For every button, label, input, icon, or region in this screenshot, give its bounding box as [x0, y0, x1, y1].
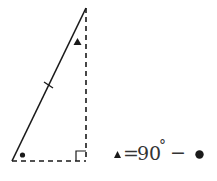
equation-dot-icon [195, 150, 203, 158]
angle-equation: = 90 ° − [114, 137, 204, 164]
right-triangle-diagram: = 90 ° − [0, 0, 217, 181]
dot-angle-marker-icon [20, 152, 25, 157]
right-angle-marker [76, 151, 86, 161]
triangle-angle-marker-icon [74, 38, 82, 45]
equation-triangle-icon [114, 151, 121, 158]
equation-degree: ° [159, 137, 166, 153]
equation-value: 90 [137, 142, 161, 164]
equation-minus: − [170, 141, 186, 163]
